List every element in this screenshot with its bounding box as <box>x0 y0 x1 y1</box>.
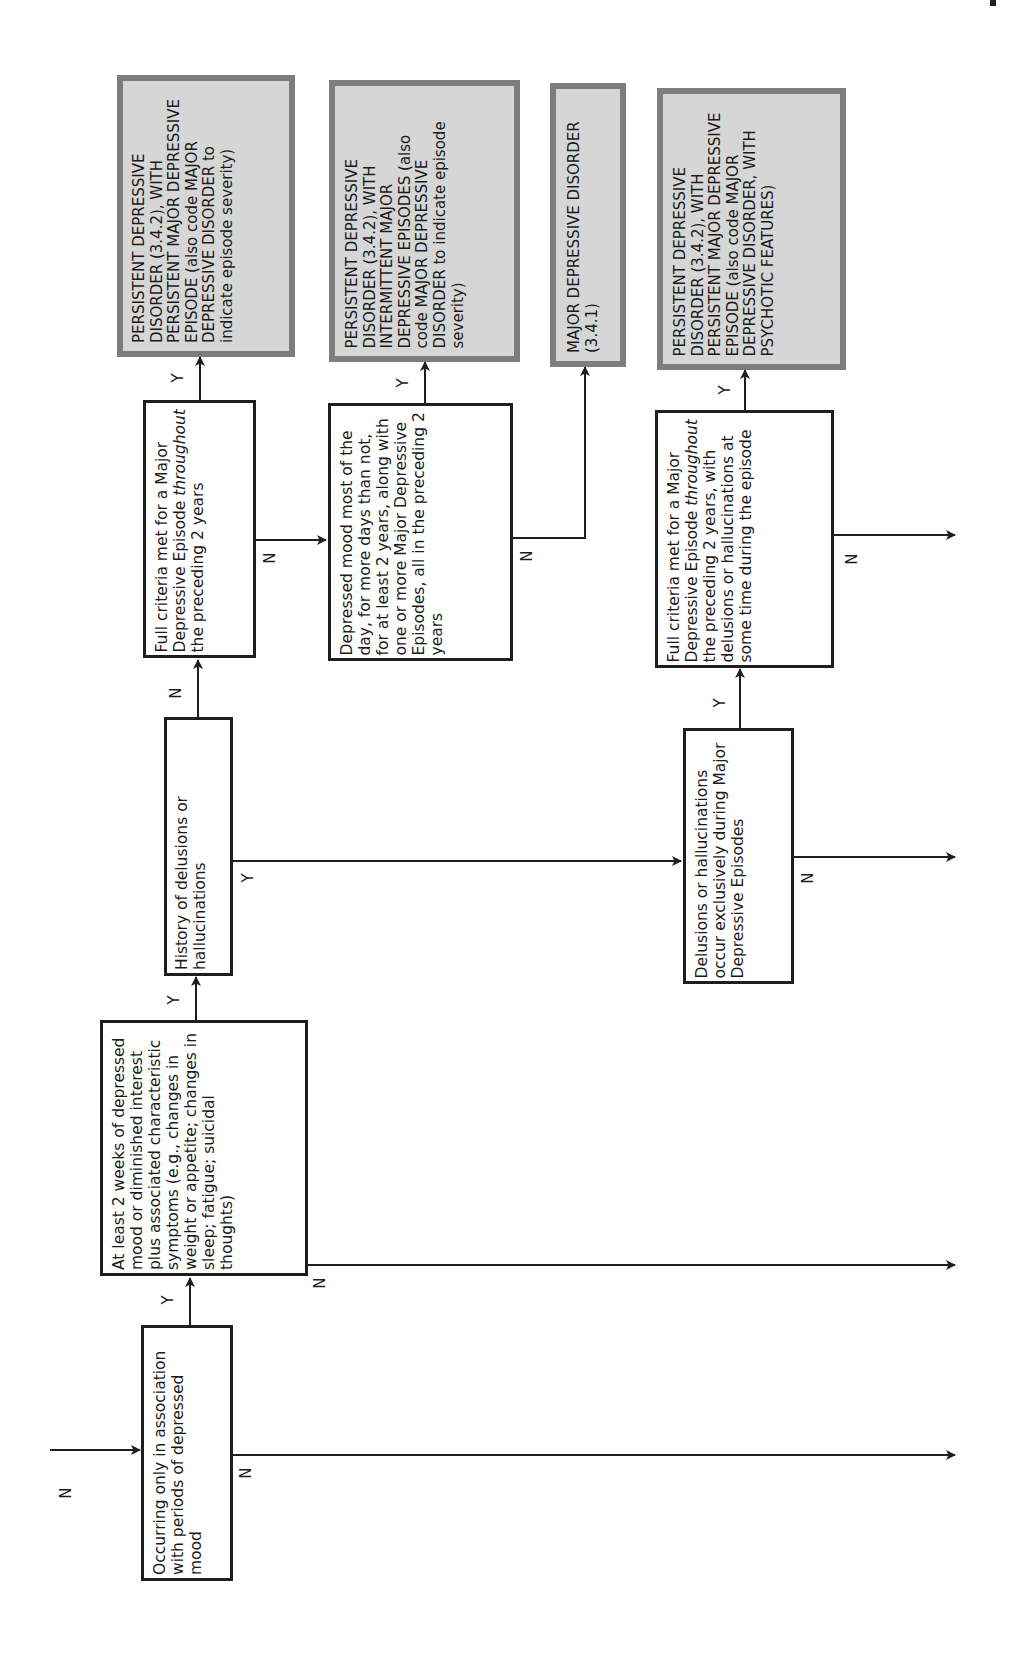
edge-label-full-2y-y: Y <box>170 370 186 386</box>
edge-label-history-y: Y <box>240 870 256 886</box>
flowchart-canvas: Occurring only in association with perio… <box>0 0 1015 1673</box>
edge-label-psychotic-y: Y <box>717 382 733 398</box>
outcome-text: PERSISTENT DEPRESSIVE DISORDER (3.4.2), … <box>131 89 237 343</box>
edge-label-exclusive-y: Y <box>712 695 728 711</box>
outcome-major-depressive-disorder: MAJOR DEPRESSIVE DISORDER (3.4.1) <box>550 83 626 367</box>
decision-text: Depressed mood most of the day, for more… <box>337 409 445 655</box>
outcome-pdd-persistent-mde: PERSISTENT DEPRESSIVE DISORDER (3.4.2), … <box>117 75 295 357</box>
decision-text: Full criteria met for a Major Depressive… <box>152 406 206 652</box>
edge-label-occurring-n: N <box>238 1465 254 1481</box>
edge-label-occurring-y: Y <box>160 1292 176 1308</box>
decision-depressed-mood-2-years: Depressed mood most of the day, for more… <box>328 403 513 661</box>
edge-label-history-n: N <box>168 685 184 701</box>
decision-history-delusions: History of delusions or hallucinations <box>164 717 233 976</box>
edge-label-depressed-y: Y <box>395 375 411 391</box>
edge-label-two-weeks-y: Y <box>166 992 182 1008</box>
edge-label-entry-n: N <box>58 1485 74 1501</box>
outcome-text: PERSISTENT DEPRESSIVE DISORDER (3.4.2), … <box>343 94 466 348</box>
page-corner-mark <box>990 0 996 6</box>
edge-label-full-2y-n: N <box>262 550 278 566</box>
decision-occurring-only: Occurring only in association with perio… <box>141 1325 233 1581</box>
decision-text: Occurring only in association with perio… <box>151 1331 205 1575</box>
outcome-pdd-intermittent-mde: PERSISTENT DEPRESSIVE DISORDER (3.4.2), … <box>329 80 520 362</box>
edge-label-two-weeks-n: N <box>312 1275 328 1291</box>
decision-text: Delusions or hallucinations occur exclus… <box>692 734 746 978</box>
edge-label-psychotic-n: N <box>844 551 860 567</box>
outcome-text: MAJOR DEPRESSIVE DISORDER (3.4.1) <box>566 97 601 353</box>
decision-text: History of delusions or hallucinations <box>173 723 209 970</box>
decision-full-criteria-psychotic: Full criteria met for a Major Depressive… <box>655 410 834 668</box>
edge-label-exclusive-n: N <box>800 870 816 886</box>
outcome-text: PERSISTENT DEPRESSIVE DISORDER (3.4.2), … <box>671 102 777 356</box>
decision-delusions-exclusive: Delusions or hallucinations occur exclus… <box>683 728 794 984</box>
outcome-pdd-psychotic-features: PERSISTENT DEPRESSIVE DISORDER (3.4.2), … <box>657 88 846 370</box>
decision-text: At least 2 weeks of depressed mood or di… <box>110 1026 236 1270</box>
edge-label-depressed-n: N <box>519 548 535 564</box>
decision-two-weeks-symptoms: At least 2 weeks of depressed mood or di… <box>100 1020 308 1276</box>
decision-text: Full criteria met for a Major Depressive… <box>664 416 754 662</box>
decision-full-criteria-2-years: Full criteria met for a Major Depressive… <box>143 400 256 658</box>
